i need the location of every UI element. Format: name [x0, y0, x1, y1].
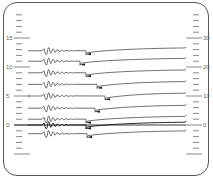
- trace-6: [28, 104, 186, 112]
- waveform-chart: 051015 0102030: [0, 0, 213, 183]
- left-tick-label: 15: [6, 35, 13, 41]
- trace-9: [28, 130, 186, 138]
- right-tick-label: 0: [203, 122, 207, 128]
- trace-2: [28, 57, 186, 65]
- right-tick-label: 30: [203, 35, 210, 41]
- left-tick-label: 10: [6, 64, 13, 70]
- trace-1: [28, 47, 186, 55]
- trace-5: [28, 92, 186, 100]
- trace-4: [28, 80, 186, 88]
- trace-7: [28, 115, 186, 123]
- left-tick-label: 0: [6, 122, 10, 128]
- right-tick-label: 20: [203, 64, 210, 70]
- left-tick-label: 5: [6, 93, 10, 99]
- right-axis: 0102030: [186, 15, 210, 154]
- right-tick-label: 10: [203, 93, 210, 99]
- traces: [28, 47, 186, 138]
- trace-3: [28, 69, 186, 77]
